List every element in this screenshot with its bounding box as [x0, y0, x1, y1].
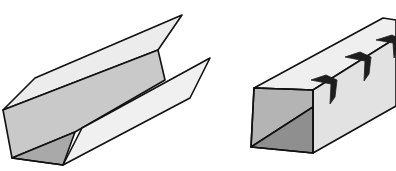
closed-box-channel: [251, 18, 396, 153]
figure-canvas: [0, 0, 396, 171]
channel-illustration: [0, 0, 396, 171]
open-u-channel: [3, 15, 210, 165]
